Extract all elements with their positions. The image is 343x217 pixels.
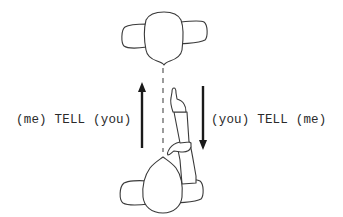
raised-hand-index-finger: [171, 88, 186, 112]
bottom-person-forearm: [174, 112, 189, 143]
bottom-person-head: [143, 157, 182, 213]
label-me-tell-you: (me) TELL (you): [16, 113, 132, 127]
bottom-person: [120, 88, 203, 213]
top-person-head: [145, 12, 184, 65]
label-you-tell-me: (you) TELL (me): [211, 113, 327, 127]
down-arrow-icon: [199, 86, 207, 150]
up-arrow-icon: [138, 82, 146, 148]
top-person: [122, 12, 207, 65]
top-person-right-shoulder: [181, 21, 207, 44]
top-person-left-shoulder: [122, 24, 147, 48]
diagram-canvas: [0, 0, 343, 217]
